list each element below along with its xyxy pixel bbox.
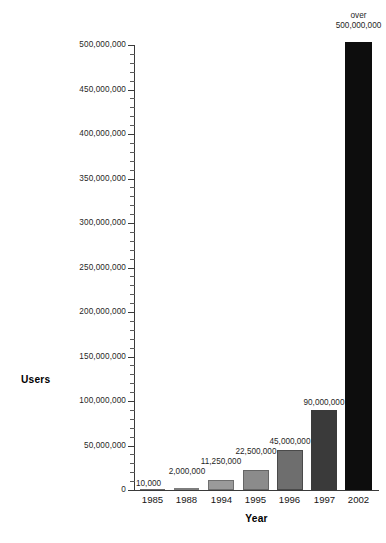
bar-value-1985: 10,000 [136,479,176,488]
y-tick-minor [130,63,135,64]
y-tick-major-5 [128,268,135,269]
x-tick-label-1997: 1997 [307,494,342,505]
x-axis-line [134,490,379,491]
y-tick-minor [130,481,135,482]
y-tick-minor [130,241,135,242]
y-tick-label-4: 200,000,000 [16,308,126,316]
y-tick-minor [130,463,135,464]
y-tick-minor [130,250,135,251]
y-tick-label-0: 0 [16,486,126,494]
y-tick-minor [130,152,135,153]
y-tick-minor [130,383,135,384]
bar-value-2002-line2: 500,000,000 [316,21,386,31]
y-tick-minor [130,259,135,260]
y-tick-minor [130,374,135,375]
x-tick-label-1994: 1994 [204,494,239,505]
y-tick-label-8: 400,000,000 [16,130,126,138]
bar-2002 [345,42,372,490]
x-tick-label-1985: 1985 [135,494,170,505]
y-tick-minor [130,232,135,233]
y-tick-minor [130,81,135,82]
y-tick-minor [130,98,135,99]
y-tick-label-6-wrap: 300,000,000 [14,219,126,228]
y-tick-minor [130,392,135,393]
y-tick-minor [130,54,135,55]
bar-chart: 0 50,000,000 100,000,000 150,000,000 200… [0,0,386,543]
x-tick-label-1996: 1996 [272,494,307,505]
y-tick-minor [130,472,135,473]
y-tick-minor [130,294,135,295]
y-tick-label-0-wrap: 0 [14,486,126,495]
y-tick-minor [130,276,135,277]
y-tick-label-2-wrap: 100,000,000 [14,397,126,406]
y-tick-label-7: 350,000,000 [16,175,126,183]
y-tick-minor [130,330,135,331]
bar-1995 [243,470,269,490]
bar-value-1997: 90,000,000 [290,398,358,407]
y-tick-minor [130,170,135,171]
bar-1985 [140,489,165,490]
y-tick-minor [130,187,135,188]
x-tick-label-1988: 1988 [169,494,204,505]
y-tick-minor [130,214,135,215]
y-tick-label-3-wrap: 150,000,000 [14,353,126,362]
y-tick-label-5-wrap: 250,000,000 [14,264,126,273]
y-tick-minor [130,285,135,286]
y-tick-minor [130,339,135,340]
y-tick-label-10: 500,000,000 [16,41,126,49]
x-tick-label-2002: 2002 [341,494,376,505]
y-tick-major-3 [128,357,135,358]
y-tick-minor [130,419,135,420]
bar-1997 [311,410,337,490]
y-tick-label-5: 250,000,000 [16,264,126,272]
y-tick-minor [130,116,135,117]
y-tick-label-6: 300,000,000 [16,219,126,227]
y-tick-minor [130,410,135,411]
y-tick-minor [130,348,135,349]
y-tick-major-10 [128,45,135,46]
y-axis-title: Users [21,374,50,385]
y-tick-minor [130,196,135,197]
y-tick-minor [130,428,135,429]
y-tick-major-4 [128,312,135,313]
y-tick-label-9: 450,000,000 [16,86,126,94]
y-tick-major-6 [128,223,135,224]
x-axis-title: Year [134,513,379,524]
y-tick-minor [130,437,135,438]
bar-value-1988: 2,000,000 [155,467,219,476]
y-tick-minor [130,107,135,108]
bar-1994 [208,480,234,490]
y-tick-label-9-wrap: 450,000,000 [14,86,126,95]
y-tick-label-4-wrap: 200,000,000 [14,308,126,317]
y-tick-minor [130,454,135,455]
y-tick-major-2 [128,401,135,402]
y-tick-label-1: 50,000,000 [16,442,126,450]
y-tick-minor [130,125,135,126]
y-tick-minor [130,321,135,322]
y-tick-label-3: 150,000,000 [16,353,126,361]
y-tick-major-8 [128,134,135,135]
bar-value-1996: 45,000,000 [256,437,324,446]
y-tick-label-7-wrap: 350,000,000 [14,175,126,184]
y-tick-minor [130,161,135,162]
y-tick-minor [130,365,135,366]
y-tick-label-8-wrap: 400,000,000 [14,130,126,139]
y-tick-major-1 [128,446,135,447]
bar-1988 [174,488,199,490]
bar-value-2002-line1: over [316,11,386,21]
y-tick-major-9 [128,90,135,91]
y-tick-label-2: 100,000,000 [16,397,126,405]
y-tick-minor [130,143,135,144]
y-tick-label-1-wrap: 50,000,000 [14,442,126,451]
y-tick-major-7 [128,179,135,180]
y-tick-label-10-wrap: 500,000,000 [14,41,126,50]
bar-value-1995: 22,500,000 [222,447,290,456]
y-tick-minor [130,72,135,73]
x-tick-label-1995: 1995 [238,494,273,505]
bar-value-2002: over 500,000,000 [316,11,386,30]
bar-value-1994: 11,250,000 [188,457,254,466]
y-tick-minor [130,205,135,206]
y-tick-minor [130,303,135,304]
